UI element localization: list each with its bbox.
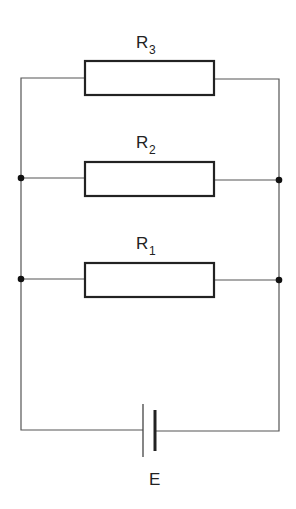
junction-node-left-r1 bbox=[18, 276, 25, 283]
resistor-r3 bbox=[85, 61, 214, 95]
parallel-circuit-diagram: R 3 R 2 R 1 E bbox=[0, 0, 296, 509]
resistor-r3-label: R bbox=[136, 33, 148, 52]
junction-node-right-r1 bbox=[276, 277, 283, 284]
resistor-r1-label: R bbox=[136, 234, 148, 253]
junction-node-right-r2 bbox=[276, 177, 283, 184]
resistor-r2-label: R bbox=[136, 133, 148, 152]
right-rail-wire bbox=[155, 79, 279, 431]
resistor-r1-subscript: 1 bbox=[149, 244, 156, 258]
resistor-r2-subscript: 2 bbox=[149, 143, 156, 157]
resistor-r2 bbox=[85, 162, 214, 196]
junction-node-left-r2 bbox=[18, 175, 25, 182]
left-rail-wire bbox=[21, 78, 143, 430]
resistor-r1 bbox=[85, 263, 214, 297]
resistor-r3-subscript: 3 bbox=[149, 43, 156, 57]
source-label: E bbox=[149, 470, 160, 489]
